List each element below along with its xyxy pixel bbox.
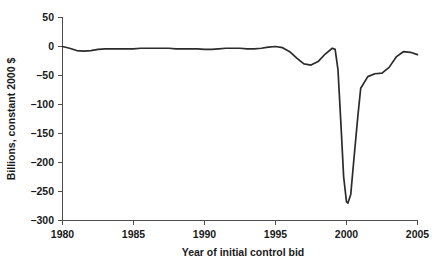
- y-tick-label: –300: [31, 214, 55, 226]
- data-series-line: [63, 47, 418, 204]
- y-tick-label: –250: [31, 185, 55, 197]
- y-tick-label: –150: [31, 127, 55, 139]
- y-tick-label: –50: [36, 69, 54, 81]
- y-tick-label: 0: [48, 40, 54, 52]
- line-chart-canvas: 50 0 –50 –100 –150 –200 –250 –300 1980 1…: [0, 0, 440, 268]
- y-axis-title: Billions, constant 2000 $: [5, 58, 17, 181]
- y-tick-label: 50: [42, 11, 54, 23]
- x-axis-ticks: [63, 221, 418, 226]
- y-axis-ticks: [58, 18, 63, 221]
- x-tick-label: 1985: [122, 228, 146, 240]
- x-axis-title: Year of initial control bid: [182, 246, 305, 258]
- chart-figure: 50 0 –50 –100 –150 –200 –250 –300 1980 1…: [0, 0, 440, 268]
- y-tick-label: –100: [31, 98, 55, 110]
- y-axis-tick-labels: 50 0 –50 –100 –150 –200 –250 –300: [31, 11, 55, 226]
- x-tick-label: 1990: [193, 228, 217, 240]
- x-tick-label: 2005: [406, 228, 430, 240]
- x-axis-tick-labels: 1980 1985 1990 1995 2000 2005: [51, 228, 430, 240]
- y-tick-label: –200: [31, 156, 55, 168]
- x-tick-label: 1995: [264, 228, 288, 240]
- x-tick-label: 2000: [335, 228, 359, 240]
- x-tick-label: 1980: [51, 228, 75, 240]
